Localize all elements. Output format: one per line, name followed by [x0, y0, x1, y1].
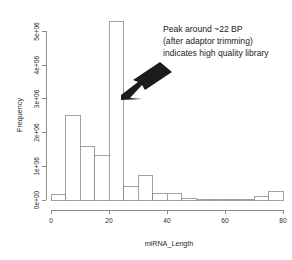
- x-tick-label: 80: [279, 217, 287, 224]
- x-axis-ticks: 020406080: [49, 210, 287, 224]
- histogram-bar: [225, 200, 240, 201]
- chart-figure: 0e+001e+062e+063e+064e+065e+06 020406080…: [0, 0, 292, 260]
- y-axis-title: Frequency: [15, 98, 24, 132]
- y-axis-ticks: 0e+001e+062e+063e+064e+065e+06: [33, 22, 46, 209]
- y-tick-label: 0e+00: [33, 190, 40, 209]
- annotation-line-2: (after adaptor trimming): [163, 36, 253, 46]
- histogram-bar: [109, 21, 124, 200]
- y-axis: 0e+001e+062e+063e+064e+065e+06: [33, 22, 46, 209]
- histogram-bar: [182, 198, 197, 200]
- peak-annotation: Peak around ~22 BP (after adaptor trimmi…: [163, 24, 269, 58]
- histogram-bar: [211, 199, 226, 200]
- annotation-line-3: indicates high quality library: [163, 48, 269, 58]
- annotation-line-1: Peak around ~22 BP: [163, 24, 243, 34]
- x-tick-label: 0: [49, 217, 53, 224]
- histogram-bar: [196, 199, 211, 200]
- histogram-bar: [153, 193, 168, 200]
- histogram-bar: [95, 155, 110, 200]
- histogram-bar: [167, 193, 182, 200]
- histogram-bar: [269, 192, 284, 200]
- histogram-bar: [80, 147, 95, 200]
- y-tick-label: 4e+06: [33, 56, 40, 75]
- x-tick-label: 60: [221, 217, 229, 224]
- histogram-bar: [51, 194, 66, 200]
- histogram-bar: [138, 176, 153, 200]
- x-axis-title: miRNA_Length: [145, 239, 194, 248]
- histogram-bar: [240, 200, 255, 201]
- histogram-plot: 0e+001e+062e+063e+064e+065e+06 020406080…: [0, 0, 292, 260]
- x-tick-label: 20: [105, 217, 113, 224]
- histogram-bar: [254, 197, 269, 200]
- histogram-bar: [124, 187, 139, 200]
- y-tick-label: 3e+06: [33, 89, 40, 108]
- y-tick-label: 5e+06: [33, 22, 40, 41]
- annotation-arrow-icon: [121, 62, 172, 100]
- x-tick-label: 40: [163, 217, 171, 224]
- x-axis: 020406080: [49, 210, 287, 224]
- y-tick-label: 1e+06: [33, 157, 40, 176]
- y-tick-label: 2e+06: [33, 123, 40, 142]
- histogram-bar: [66, 116, 81, 200]
